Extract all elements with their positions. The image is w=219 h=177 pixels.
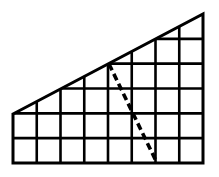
grid-trapezoid-diagram	[0, 0, 219, 177]
grid-lines	[13, 14, 203, 163]
